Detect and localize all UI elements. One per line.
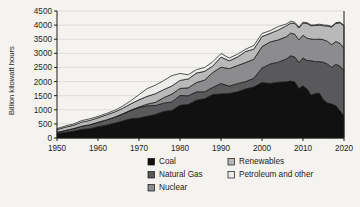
chart-figure: 050010001500200025003000350040004500 195… xyxy=(0,0,360,207)
y-tick-label: 2500 xyxy=(34,63,53,72)
y-tick-label: 1000 xyxy=(34,106,53,115)
x-tick-label: 1990 xyxy=(212,144,231,153)
x-tick-label: 2010 xyxy=(294,144,313,153)
area-series-group xyxy=(57,21,344,138)
legend-label-natural-gas: Natural Gas xyxy=(159,170,203,179)
y-axis-ticks: 050010001500200025003000350040004500 xyxy=(34,7,57,143)
y-tick-label: 4000 xyxy=(34,21,53,30)
legend-swatch-coal xyxy=(148,159,155,166)
chart-legend: CoalNatural GasNuclearRenewablesPetroleu… xyxy=(148,157,313,192)
legend-label-nuclear: Nuclear xyxy=(159,183,187,192)
y-tick-label: 3500 xyxy=(34,35,53,44)
x-tick-label: 2020 xyxy=(335,144,354,153)
legend-swatch-nuclear xyxy=(148,185,155,192)
legend-label-coal: Coal xyxy=(159,157,176,166)
x-tick-label: 2000 xyxy=(253,144,272,153)
legend-label-petroleum-and-other: Petroleum and other xyxy=(239,170,313,179)
y-tick-label: 3000 xyxy=(34,49,53,58)
y-tick-label: 500 xyxy=(38,120,52,129)
y-axis-label: Billion kilowatt hours xyxy=(7,46,16,115)
legend-swatch-petroleum-and-other xyxy=(228,172,235,179)
legend-swatch-natural-gas xyxy=(148,172,155,179)
x-axis-ticks: 19501960197019801990200020102020 xyxy=(48,138,354,153)
y-tick-label: 2000 xyxy=(34,78,53,87)
legend-label-renewables: Renewables xyxy=(239,157,284,166)
y-tick-label: 4500 xyxy=(34,7,53,16)
y-tick-label: 1500 xyxy=(34,92,53,101)
stacked-area-chart: 050010001500200025003000350040004500 195… xyxy=(0,0,360,207)
x-tick-label: 1960 xyxy=(89,144,108,153)
legend-swatch-renewables xyxy=(228,159,235,166)
y-tick-label: 0 xyxy=(47,134,52,143)
x-tick-label: 1970 xyxy=(130,144,149,153)
x-tick-label: 1950 xyxy=(48,144,67,153)
x-tick-label: 1980 xyxy=(171,144,190,153)
